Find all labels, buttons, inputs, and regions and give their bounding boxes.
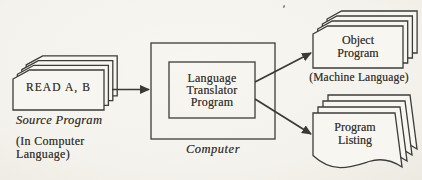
language-translator-label: Language Translator Program: [169, 62, 255, 118]
machine-language-note: (Machine Language): [303, 71, 415, 83]
source-program-caption: Source Program: [16, 113, 102, 128]
source-sheet-statement: READ A, B: [13, 81, 104, 93]
source-language-note: (In Computer Language): [16, 135, 85, 160]
arrow-computer-to-listing: [255, 99, 311, 134]
program-listing-label: Program Listing: [313, 111, 397, 157]
object-program-label: Object Program: [313, 26, 403, 68]
computer-caption: Computer: [151, 142, 275, 157]
diagram-canvas: READ A, B Source Program (In Computer La…: [0, 0, 422, 180]
